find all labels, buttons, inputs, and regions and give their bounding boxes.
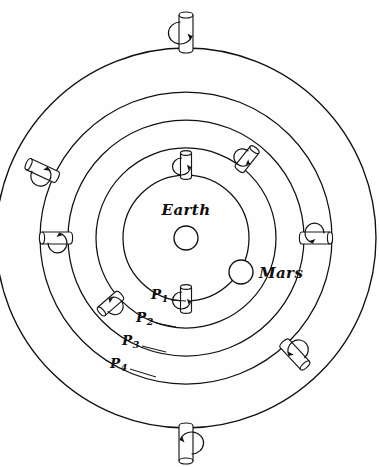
rotating-axle-icon xyxy=(228,139,261,173)
orbit-label-p3-letter: P xyxy=(121,332,133,348)
rotating-axle-icon xyxy=(278,331,318,372)
rotating-axle-icon xyxy=(20,158,61,193)
tychonic-sphere-diagram: Earth Mars P 1 P 2 P 3 P 4 xyxy=(0,0,379,467)
axle-p2-upperright xyxy=(228,139,261,173)
mars-circle xyxy=(229,260,253,284)
orbit-label-p4-letter: P xyxy=(109,355,121,371)
leader-line-p4 xyxy=(130,369,156,377)
earth-circle xyxy=(174,226,198,250)
axle-p2-lowerleft xyxy=(96,290,130,323)
orbit-label-p2-letter: P xyxy=(135,309,147,325)
rotating-axle-icon xyxy=(173,285,192,314)
mars-label: Mars xyxy=(258,264,303,282)
axle-p4-upperleft xyxy=(20,158,61,193)
earth-label: Earth xyxy=(161,201,211,219)
axle-p3-left xyxy=(39,232,72,253)
orbit-label-p2-subscript: 2 xyxy=(146,316,154,327)
rotating-axle-icon xyxy=(173,151,192,180)
rotating-axle-icon xyxy=(96,290,130,323)
axle-outer-bottom xyxy=(179,423,204,464)
axle-p3-right xyxy=(299,223,332,244)
rotating-axle-icon xyxy=(179,423,204,464)
orbit-label-p2: P 2 xyxy=(135,309,176,327)
leader-line-p2 xyxy=(156,323,176,327)
axle-p4-lowerright xyxy=(278,331,318,372)
orbit-label-p3: P 3 xyxy=(121,332,166,352)
orbit-label-p1-letter: P xyxy=(150,286,162,302)
rotating-axle-icon xyxy=(168,12,193,53)
rotating-axle-icon xyxy=(39,232,72,253)
rotating-axle-icon xyxy=(299,223,332,244)
figure-canvas: Earth Mars P 1 P 2 P 3 P 4 xyxy=(0,0,379,467)
orbit-label-p4-subscript: 4 xyxy=(121,362,128,373)
axle-p1-top xyxy=(173,151,192,180)
axle-outer-top xyxy=(168,12,193,53)
axle-p1-bottom xyxy=(173,285,192,314)
orbit-label-p3-subscript: 3 xyxy=(133,339,140,350)
orbit-label-p1-subscript: 1 xyxy=(162,293,169,304)
